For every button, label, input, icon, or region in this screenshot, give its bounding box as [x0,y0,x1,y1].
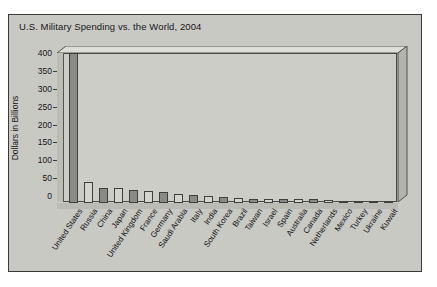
bar-slot [144,60,153,203]
y-axis-tick-label: 200 [38,120,52,130]
bar-ukraine[interactable] [369,201,378,203]
x-axis-labels: United StatesRussiaChinaJapanUnited King… [57,207,417,277]
y-axis-tick-label: 100 [38,155,52,165]
bar-slot [249,60,258,203]
bar-kuwait[interactable] [384,201,393,203]
y-axis-tick-label: 250 [38,102,52,112]
bar-saudi-arabia[interactable] [174,194,183,203]
bar-slot [99,60,108,203]
bar-united-states[interactable] [69,53,78,203]
bar-slot [189,60,198,203]
y-axis-wall [57,53,64,202]
bar-india[interactable] [204,196,213,203]
plot-area: Dollars in Billions 05010015020025030035… [57,46,412,209]
bar-south-korea[interactable] [219,197,228,203]
y-axis-tick-label: 0 [47,191,52,201]
bar-slot [174,60,183,203]
bar-brazil[interactable] [234,198,243,203]
bar-slot [369,60,378,203]
y-axis-title: Dollars in Billions [10,95,20,160]
bar-slot [204,60,213,203]
bar-australia[interactable] [294,199,303,203]
bar-slot [339,60,348,203]
bar-slot [219,60,228,203]
chart-panel: U.S. Military Spending vs. the World, 20… [8,14,422,272]
bar-slot [279,60,288,203]
chart-title: U.S. Military Spending vs. the World, 20… [19,21,202,32]
y-axis-tick-label: 300 [38,84,52,94]
y-axis-tick-mark [53,125,57,126]
bar-israel[interactable] [264,199,273,203]
bar-russia[interactable] [84,182,93,203]
bar-italy[interactable] [189,195,198,203]
bar-slot [114,60,123,203]
bar-slot [309,60,318,203]
bar-slot [264,60,273,203]
bar-netherlands[interactable] [324,200,333,203]
bar-japan[interactable] [114,188,123,203]
bar-spain[interactable] [279,199,288,203]
bar-slot [324,60,333,203]
y-axis-tick-mark [53,71,57,72]
bar-turkey[interactable] [354,201,363,203]
bar-slot [69,60,78,203]
x-axis-tick-label: United States [50,207,84,252]
y-axis-tick-mark [53,142,57,143]
y-axis-tick-mark [53,107,57,108]
bar-france[interactable] [144,191,153,203]
y-axis-tick-label: 150 [38,137,52,147]
bar-series [66,60,396,203]
bar-slot [234,60,243,203]
y-axis-tick-mark [53,160,57,161]
bar-united-kingdom[interactable] [129,190,138,203]
y-axis-tick-label: 400 [38,48,52,58]
bar-slot [384,60,393,203]
y-axis-tick-label: 350 [38,66,52,76]
bar-china[interactable] [99,188,108,203]
y-axis-tick-mark [53,178,57,179]
bar-mexico[interactable] [339,201,348,204]
bar-slot [84,60,93,203]
y-axis-tick-mark [53,89,57,90]
bar-canada[interactable] [309,199,318,203]
bar-slot [129,60,138,203]
y-axis-tick-label: 50 [43,173,52,183]
bar-slot [294,60,303,203]
bar-slot [159,60,168,203]
bar-taiwan[interactable] [249,199,258,203]
bar-germany[interactable] [159,192,168,203]
bar-slot [354,60,363,203]
